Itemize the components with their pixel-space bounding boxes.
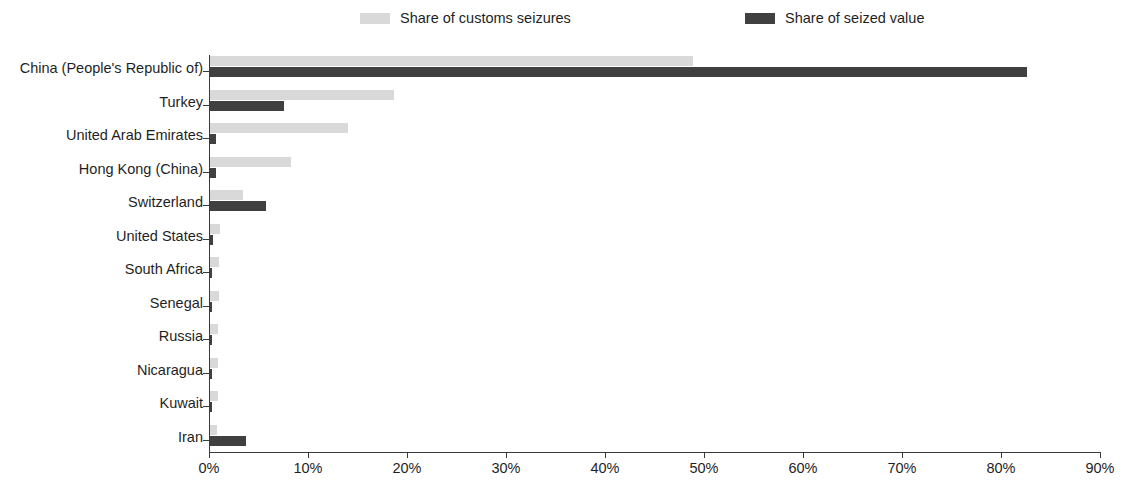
bar-seized-value xyxy=(210,101,284,111)
y-axis-label: Iran xyxy=(0,429,203,446)
legend-entry-customs-seizures: Share of customs seizures xyxy=(360,10,571,26)
bar-customs-seizures xyxy=(210,291,219,301)
bar-seized-value xyxy=(210,302,212,312)
y-axis-tick xyxy=(203,406,209,407)
x-axis-tick xyxy=(704,453,705,458)
y-axis-tick xyxy=(203,172,209,173)
y-axis-tick xyxy=(203,339,209,340)
y-axis-tick xyxy=(203,71,209,72)
bar-seized-value xyxy=(210,436,246,446)
bar-customs-seizures xyxy=(210,257,219,267)
x-axis-label: 60% xyxy=(788,460,817,477)
y-axis-label: Switzerland xyxy=(0,194,203,211)
x-axis-label: 10% xyxy=(293,460,322,477)
y-axis-tick xyxy=(203,205,209,206)
x-axis-tick xyxy=(803,453,804,458)
x-axis-label: 70% xyxy=(887,460,916,477)
bar-seized-value xyxy=(210,402,212,412)
bar-customs-seizures xyxy=(210,391,218,401)
bar-seized-value xyxy=(210,235,213,245)
chart-legend: Share of customs seizures Share of seize… xyxy=(0,0,1129,40)
bar-seized-value xyxy=(210,168,216,178)
y-axis-label: Hong Kong (China) xyxy=(0,161,203,178)
bar-customs-seizures xyxy=(210,157,291,167)
plot-area: China (People's Republic of)TurkeyUnited… xyxy=(0,50,1129,483)
x-axis-tick xyxy=(1100,453,1101,458)
legend-label-customs-seizures: Share of customs seizures xyxy=(400,10,571,26)
bar-seized-value xyxy=(210,369,212,379)
bar-customs-seizures xyxy=(210,190,243,200)
y-axis-tick xyxy=(203,373,209,374)
y-axis-label: Kuwait xyxy=(0,395,203,412)
bar-customs-seizures xyxy=(210,56,693,66)
x-axis-label: 40% xyxy=(590,460,619,477)
bar-seized-value xyxy=(210,335,212,345)
y-axis-label: South Africa xyxy=(0,261,203,278)
y-axis-tick xyxy=(203,272,209,273)
x-axis-tick xyxy=(902,453,903,458)
y-axis-label: United States xyxy=(0,228,203,245)
x-axis-tick xyxy=(209,453,210,458)
bar-customs-seizures xyxy=(210,324,218,334)
y-axis-category-labels: China (People's Republic of)TurkeyUnited… xyxy=(0,50,203,452)
bar-seized-value xyxy=(210,134,216,144)
y-axis-tick xyxy=(203,306,209,307)
bar-customs-seizures xyxy=(210,358,218,368)
y-axis-label: China (People's Republic of) xyxy=(0,60,203,77)
y-axis-tick xyxy=(203,105,209,106)
legend-entry-seized-value: Share of seized value xyxy=(745,10,924,26)
legend-swatch-dark-icon xyxy=(745,13,775,24)
bar-chart: Share of customs seizures Share of seize… xyxy=(0,0,1129,483)
x-axis-label: 0% xyxy=(199,460,220,477)
bar-customs-seizures xyxy=(210,123,348,133)
x-axis-label: 30% xyxy=(491,460,520,477)
y-axis-label: Senegal xyxy=(0,295,203,312)
bar-series-container xyxy=(210,50,1110,452)
x-axis-tick xyxy=(1001,453,1002,458)
x-axis-tick xyxy=(605,453,606,458)
y-axis-label: United Arab Emirates xyxy=(0,127,203,144)
y-axis-tick xyxy=(203,440,209,441)
bar-customs-seizures xyxy=(210,90,394,100)
bar-seized-value xyxy=(210,268,212,278)
y-axis-tick xyxy=(203,239,209,240)
x-axis-tick xyxy=(407,453,408,458)
y-axis-label: Russia xyxy=(0,328,203,345)
y-axis-label: Turkey xyxy=(0,94,203,111)
bar-customs-seizures xyxy=(210,224,220,234)
x-axis-label: 50% xyxy=(689,460,718,477)
x-axis-line xyxy=(209,452,1101,453)
x-axis-label: 90% xyxy=(1085,460,1114,477)
x-axis-label: 20% xyxy=(392,460,421,477)
x-axis-tick xyxy=(506,453,507,458)
x-axis-tick xyxy=(308,453,309,458)
x-axis-label: 80% xyxy=(986,460,1015,477)
legend-label-seized-value: Share of seized value xyxy=(785,10,924,26)
bar-customs-seizures xyxy=(210,425,217,435)
y-axis-label: Nicaragua xyxy=(0,362,203,379)
bar-seized-value xyxy=(210,201,266,211)
y-axis-tick xyxy=(203,138,209,139)
legend-swatch-light-icon xyxy=(360,13,390,24)
bar-seized-value xyxy=(210,67,1027,77)
